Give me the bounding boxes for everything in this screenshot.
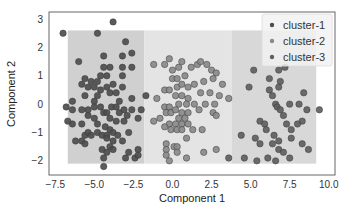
point-cluster-3 [277, 78, 283, 84]
point-cluster-2 [166, 158, 172, 164]
x-tick-label: 0.0 [166, 179, 180, 190]
y-tick-label: −2 [32, 155, 44, 166]
point-cluster-2 [191, 101, 197, 107]
point-cluster-3 [276, 138, 282, 144]
point-cluster-2 [166, 56, 172, 62]
point-cluster-2 [182, 73, 188, 79]
point-cluster-2 [191, 81, 197, 87]
point-cluster-2 [210, 75, 216, 81]
point-cluster-1 [113, 118, 119, 124]
point-cluster-2 [161, 61, 167, 67]
point-cluster-3 [271, 132, 277, 138]
point-cluster-1 [65, 118, 71, 124]
point-cluster-2 [197, 58, 203, 64]
point-cluster-3 [280, 149, 286, 155]
x-tick-label: 7.5 [283, 179, 297, 190]
point-cluster-1 [91, 104, 97, 110]
point-cluster-2 [166, 104, 172, 110]
point-cluster-1 [126, 129, 132, 135]
x-axis-label: Component 1 [159, 192, 225, 204]
point-cluster-1 [119, 64, 125, 70]
point-cluster-3 [272, 158, 278, 164]
point-cluster-1 [126, 149, 132, 155]
point-cluster-1 [129, 95, 135, 101]
point-cluster-1 [135, 152, 141, 158]
point-cluster-1 [69, 98, 75, 104]
point-cluster-2 [161, 124, 167, 130]
point-cluster-2 [168, 126, 174, 132]
point-cluster-2 [176, 64, 182, 70]
point-cluster-2 [151, 118, 157, 124]
point-cluster-2 [172, 92, 178, 98]
point-cluster-2 [179, 58, 185, 64]
point-cluster-2 [226, 95, 232, 101]
point-cluster-3 [266, 87, 272, 93]
point-cluster-3 [241, 155, 247, 161]
point-cluster-2 [213, 70, 219, 76]
point-cluster-1 [72, 138, 78, 144]
x-tick-label: 5.0 [244, 179, 258, 190]
x-tick-label: −5.0 [84, 179, 104, 190]
point-cluster-2 [179, 109, 185, 115]
point-cluster-1 [97, 104, 103, 110]
point-cluster-1 [122, 39, 128, 45]
point-cluster-1 [119, 84, 125, 90]
point-cluster-2 [183, 101, 189, 107]
point-cluster-3 [252, 135, 258, 141]
point-cluster-1 [104, 109, 110, 115]
point-cluster-2 [174, 75, 180, 81]
point-cluster-1 [91, 115, 97, 121]
x-tick-label: −2.5 [124, 179, 144, 190]
point-cluster-2 [154, 95, 160, 101]
point-cluster-2 [179, 126, 185, 132]
point-cluster-2 [163, 152, 169, 158]
point-cluster-1 [119, 73, 125, 79]
point-cluster-3 [257, 141, 263, 147]
point-cluster-1 [121, 107, 127, 113]
point-cluster-1 [107, 90, 113, 96]
point-cluster-2 [188, 64, 194, 70]
point-cluster-1 [129, 50, 135, 56]
point-cluster-3 [283, 121, 289, 127]
point-cluster-2 [179, 92, 185, 98]
point-cluster-2 [213, 146, 219, 152]
legend-marker-cluster-2 [270, 39, 274, 43]
point-cluster-3 [299, 141, 305, 147]
point-cluster-3 [316, 107, 322, 113]
point-cluster-1 [124, 112, 130, 118]
point-cluster-1 [88, 132, 94, 138]
point-cluster-1 [119, 138, 125, 144]
point-cluster-1 [97, 73, 103, 79]
point-cluster-1 [63, 104, 69, 110]
point-cluster-1 [119, 53, 125, 59]
point-cluster-2 [166, 87, 172, 93]
point-cluster-1 [79, 121, 85, 127]
legend-marker-cluster-1 [270, 23, 274, 27]
point-cluster-3 [286, 101, 292, 107]
point-cluster-3 [265, 155, 271, 161]
point-cluster-1 [104, 73, 110, 79]
point-cluster-1 [104, 84, 110, 90]
point-cluster-1 [100, 53, 106, 59]
point-cluster-1 [94, 92, 100, 98]
point-cluster-3 [276, 67, 282, 73]
x-axis-ticks: −7.5−5.0−2.50.02.55.07.510.0 [45, 179, 339, 190]
legend-label-cluster-1: cluster-1 [283, 19, 325, 31]
y-tick-label: 0 [37, 99, 43, 110]
y-axis-ticks: −2−10123 [32, 14, 44, 167]
point-cluster-2 [219, 81, 225, 87]
y-tick-label: −1 [32, 127, 44, 138]
point-cluster-2 [201, 78, 207, 84]
point-cluster-1 [69, 107, 75, 113]
point-cluster-1 [107, 115, 113, 121]
point-cluster-3 [269, 141, 275, 147]
point-cluster-1 [100, 163, 106, 169]
point-cluster-2 [185, 121, 191, 127]
point-cluster-2 [183, 155, 189, 161]
point-cluster-1 [122, 155, 128, 161]
point-cluster-2 [172, 107, 178, 113]
point-cluster-1 [104, 149, 110, 155]
point-cluster-1 [110, 146, 116, 152]
x-tick-label: 10.0 [319, 179, 339, 190]
scatter-chart: −7.5−5.0−2.50.02.55.07.510.0 −2−10123 Co… [0, 0, 357, 216]
